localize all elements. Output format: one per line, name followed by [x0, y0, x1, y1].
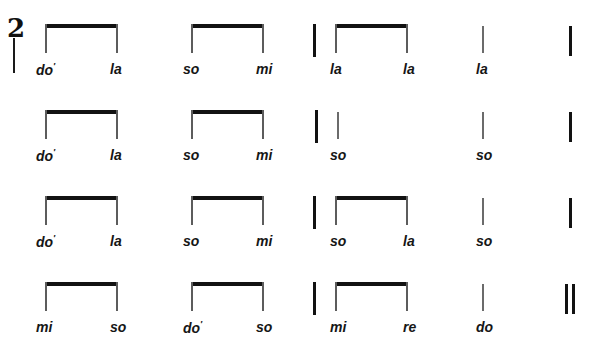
note-stem — [262, 196, 264, 225]
beam — [191, 196, 264, 200]
beam — [45, 282, 118, 286]
note-stem — [406, 196, 408, 225]
solfege-syllable: re — [403, 320, 416, 334]
octave-prime-mark: ′ — [53, 147, 55, 157]
solfege-syllable: so — [110, 320, 126, 334]
opening-barline — [13, 38, 15, 73]
note-stem — [191, 24, 193, 53]
beamed-note-pair — [191, 110, 264, 139]
beam — [191, 282, 264, 286]
closing-barline — [569, 26, 572, 56]
barline — [313, 196, 316, 229]
note-stem — [335, 24, 337, 53]
note-stem — [116, 110, 118, 139]
note-stem — [482, 26, 484, 53]
solfege-syllable: mi — [36, 320, 52, 334]
note-stem — [116, 282, 118, 311]
beamed-note-pair — [45, 24, 118, 53]
solfege-syllable: la — [403, 234, 415, 248]
note-stem — [262, 24, 264, 53]
beam — [335, 24, 408, 28]
final-barline-stroke — [572, 284, 575, 314]
solfege-syllable: do′ — [36, 234, 55, 249]
beamed-note-pair — [191, 24, 264, 53]
beamed-note-pair — [191, 282, 264, 311]
note-stem — [406, 282, 408, 311]
solfege-syllable: so — [183, 62, 199, 76]
final-barline-stroke — [565, 284, 568, 314]
solfege-syllable: so — [183, 148, 199, 162]
note-stem — [482, 284, 484, 311]
beam — [191, 24, 264, 28]
octave-prime-mark: ′ — [53, 61, 55, 71]
note-stem — [45, 110, 47, 139]
solfege-syllable: la — [476, 62, 488, 76]
beam — [45, 24, 118, 28]
beam — [191, 110, 264, 114]
beam — [335, 282, 408, 286]
solfege-syllable: do — [476, 320, 493, 334]
solfege-syllable: do′ — [36, 62, 55, 77]
note-stem — [262, 282, 264, 311]
note-stem — [116, 196, 118, 225]
beamed-note-pair — [45, 282, 118, 311]
note-stem — [191, 282, 193, 311]
staff-system: 2do′lasomilalala — [0, 10, 591, 96]
octave-prime-mark: ′ — [200, 319, 202, 329]
staff-system: misodo′somiredo — [0, 268, 591, 346]
closing-barline — [569, 112, 572, 142]
solfege-syllable: do′ — [36, 148, 55, 163]
barline — [315, 110, 318, 143]
music-score: 2do′lasomilalalado′lasomisosodo′lasomiso… — [0, 0, 591, 346]
beamed-note-pair — [335, 24, 408, 53]
solfege-syllable: so — [476, 234, 492, 248]
note-stem — [191, 110, 193, 139]
closing-barline — [569, 198, 572, 228]
note-stem — [262, 110, 264, 139]
note-stem — [116, 24, 118, 53]
solfege-syllable: so — [183, 234, 199, 248]
solfege-syllable: so — [476, 148, 492, 162]
solfege-syllable: la — [403, 62, 415, 76]
beamed-note-pair — [45, 196, 118, 225]
solfege-syllable: mi — [330, 320, 346, 334]
solfege-syllable: so — [330, 234, 346, 248]
beam — [45, 196, 118, 200]
solfege-syllable: la — [110, 148, 122, 162]
solfege-syllable: la — [110, 62, 122, 76]
final-double-barline — [565, 284, 575, 314]
solfege-syllable: la — [110, 234, 122, 248]
note-stem — [335, 282, 337, 311]
solfege-syllable: do′ — [183, 320, 202, 335]
beamed-note-pair — [335, 196, 408, 225]
staff-system: do′lasomisoso — [0, 96, 591, 182]
note-stem — [45, 196, 47, 225]
note-stem — [482, 198, 484, 225]
note-stem — [191, 196, 193, 225]
solfege-syllable: la — [330, 62, 342, 76]
note-stem — [482, 112, 484, 139]
octave-prime-mark: ′ — [53, 233, 55, 243]
note-stem — [406, 24, 408, 53]
solfege-syllable: mi — [256, 148, 272, 162]
beamed-note-pair — [335, 282, 408, 311]
time-signature: 2 — [7, 15, 25, 41]
beam — [45, 110, 118, 114]
barline — [313, 24, 316, 57]
beamed-note-pair — [191, 196, 264, 225]
solfege-syllable: mi — [256, 62, 272, 76]
solfege-syllable: so — [330, 148, 346, 162]
solfege-syllable: mi — [256, 234, 272, 248]
note-stem — [335, 196, 337, 225]
barline — [313, 282, 316, 315]
solfege-syllable: so — [256, 320, 272, 334]
beamed-note-pair — [45, 110, 118, 139]
note-stem — [45, 282, 47, 311]
beam — [335, 196, 408, 200]
note-stem — [45, 24, 47, 53]
note-stem — [337, 112, 339, 139]
staff-system: do′lasomisolaso — [0, 182, 591, 268]
